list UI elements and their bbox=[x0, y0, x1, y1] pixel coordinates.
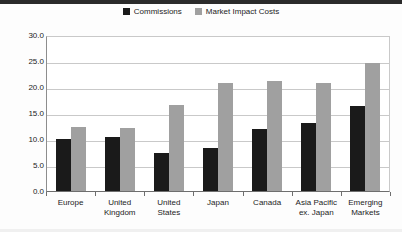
x-axis-ticks bbox=[46, 192, 390, 196]
x-axis-category-label: Japan bbox=[193, 198, 242, 218]
y-axis-tick-label: 20.0 bbox=[0, 84, 44, 92]
bar bbox=[218, 83, 233, 191]
bar-group bbox=[291, 37, 340, 191]
legend-label: Market Impact Costs bbox=[206, 7, 279, 16]
legend-label: Commissions bbox=[134, 7, 182, 16]
x-axis-tick bbox=[193, 192, 194, 196]
scan-artifact-top-band bbox=[0, 0, 402, 4]
y-axis-tick-label: 15.0 bbox=[0, 110, 44, 118]
bar-group bbox=[340, 37, 389, 191]
bar bbox=[120, 128, 135, 191]
legend-entry: Commissions bbox=[123, 7, 182, 16]
x-axis-tick bbox=[390, 192, 391, 196]
bar-group bbox=[96, 37, 145, 191]
bar bbox=[365, 63, 380, 191]
bar bbox=[301, 123, 316, 191]
y-axis-tick-label: 10.0 bbox=[0, 136, 44, 144]
bar bbox=[267, 81, 282, 191]
bar bbox=[252, 129, 267, 191]
x-axis-category-label: Asia Pacific ex. Japan bbox=[292, 198, 341, 218]
x-axis-category-label: Emerging Markets bbox=[341, 198, 390, 218]
x-axis-tick bbox=[144, 192, 145, 196]
bar bbox=[56, 139, 71, 191]
bar-group bbox=[242, 37, 291, 191]
legend-swatch-icon bbox=[195, 8, 202, 15]
x-axis-tick bbox=[46, 192, 47, 196]
plot-area bbox=[46, 36, 390, 192]
x-axis-category-label: United States bbox=[144, 198, 193, 218]
bar-group bbox=[194, 37, 243, 191]
scan-artifact-bottom-band bbox=[0, 229, 402, 232]
y-axis-tick-label: 0.0 bbox=[0, 188, 44, 196]
x-axis-tick bbox=[243, 192, 244, 196]
bar bbox=[350, 106, 365, 191]
x-axis-tick bbox=[292, 192, 293, 196]
bar bbox=[105, 137, 120, 191]
x-axis-category-label: United Kingdom bbox=[95, 198, 144, 218]
y-axis-tick-label: 5.0 bbox=[0, 162, 44, 170]
bar-group bbox=[47, 37, 96, 191]
chart-legend: CommissionsMarket Impact Costs bbox=[0, 7, 402, 16]
x-axis-tick bbox=[341, 192, 342, 196]
x-axis-category-labels: EuropeUnited KingdomUnited StatesJapanCa… bbox=[46, 198, 390, 218]
x-axis-tick bbox=[95, 192, 96, 196]
x-axis-category-label: Canada bbox=[243, 198, 292, 218]
bar-group bbox=[145, 37, 194, 191]
bar bbox=[203, 148, 218, 191]
bar-chart: CommissionsMarket Impact Costs 30.025.02… bbox=[0, 0, 402, 232]
legend-entry: Market Impact Costs bbox=[195, 7, 279, 16]
bar-groups bbox=[47, 37, 389, 191]
x-axis-category-label: Europe bbox=[46, 198, 95, 218]
bar bbox=[71, 127, 86, 191]
y-axis-tick-label: 25.0 bbox=[0, 58, 44, 66]
bar bbox=[169, 105, 184, 191]
bar bbox=[154, 153, 169, 191]
bar bbox=[316, 83, 331, 191]
legend-swatch-icon bbox=[123, 8, 130, 15]
y-axis-tick-label: 30.0 bbox=[0, 32, 44, 40]
